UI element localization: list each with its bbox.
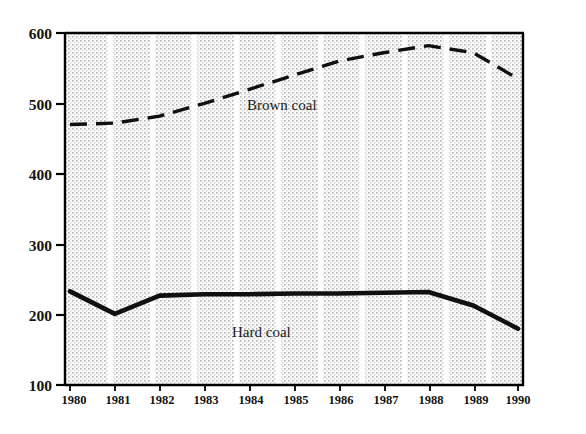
- y-axis-labels: 600 500 400 300 200 100: [29, 25, 53, 394]
- y-tick-label: 500: [29, 96, 53, 113]
- x-tick-label: 1983: [194, 393, 219, 407]
- x-tick-label: 1982: [150, 393, 175, 407]
- x-tick-label: 1989: [464, 393, 489, 407]
- line-chart: 600 500 400 300 200 100 1980 1981 1982: [0, 0, 586, 434]
- series-annotation-brown-coal: Brown coal: [247, 97, 317, 113]
- y-tick-label: 100: [29, 377, 53, 394]
- x-tick-label: 1987: [374, 393, 399, 407]
- y-tick-label: 600: [29, 25, 53, 42]
- x-tick-label: 1988: [419, 393, 444, 407]
- x-tick-label: 1980: [62, 393, 87, 407]
- x-axis-labels: 1980 1981 1982 1983 1984 1985 1986 1987 …: [62, 393, 531, 407]
- x-tick-label: 1985: [284, 393, 309, 407]
- x-tick-label: 1990: [506, 393, 531, 407]
- x-tick-label: 1984: [239, 393, 265, 407]
- y-tick-label: 200: [29, 307, 53, 324]
- series-annotation-hard-coal: Hard coal: [232, 324, 291, 340]
- y-tick-label: 300: [29, 237, 53, 254]
- plot-area-background: [65, 33, 524, 386]
- chart-canvas: 600 500 400 300 200 100 1980 1981 1982: [0, 0, 586, 434]
- y-tick-label: 400: [29, 166, 53, 183]
- x-tick-label: 1986: [329, 393, 354, 407]
- x-tick-label: 1981: [106, 393, 131, 407]
- y-axis-ticks: [56, 33, 65, 385]
